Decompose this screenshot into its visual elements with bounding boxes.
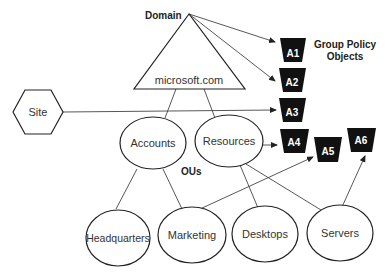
site-label: Site [29,106,48,118]
gpo-a5-label: A5 [322,146,335,157]
gpo-a3: A3 [279,98,306,122]
ous-label: OUs [181,166,202,177]
ou-marketing: Marketing [158,207,226,263]
ou-servers: Servers [307,205,373,261]
gpo-title-line1: Group Policy [314,39,377,50]
gpo-a6: A6 [347,128,376,152]
site-node: Site [13,90,63,134]
ou-desktops: Desktops [232,206,298,262]
domain-label: Domain [145,10,182,21]
gpo-a1: A1 [280,38,306,62]
gpo-a4-label: A4 [288,137,301,148]
ou-resources: Resources [195,115,263,167]
gpo-a4: A4 [280,129,309,153]
ou-servers-label: Servers [321,227,359,239]
gpo-diagram: Domain microsoft.com Site Accounts Resou… [0,0,390,273]
domain-name: microsoft.com [155,74,223,86]
gpo-a1-label: A1 [287,48,300,59]
ou-marketing-label: Marketing [168,229,216,241]
gpo-a5: A5 [314,137,342,162]
ou-headquarters: Headquarters [86,210,150,266]
gpo-title-line2: Objects [327,51,364,62]
gpo-a6-label: A6 [355,135,368,146]
gpo-a2-label: A2 [286,77,299,88]
ou-desktops-label: Desktops [242,228,288,240]
ou-headquarters-label: Headquarters [86,232,150,244]
gpo-a3-label: A3 [286,107,299,118]
ou-accounts: Accounts [120,117,186,169]
ou-resources-label: Resources [203,135,256,147]
domain-node: Domain microsoft.com [134,10,245,89]
ou-accounts-label: Accounts [130,137,176,149]
gpo-a2: A2 [279,68,306,92]
